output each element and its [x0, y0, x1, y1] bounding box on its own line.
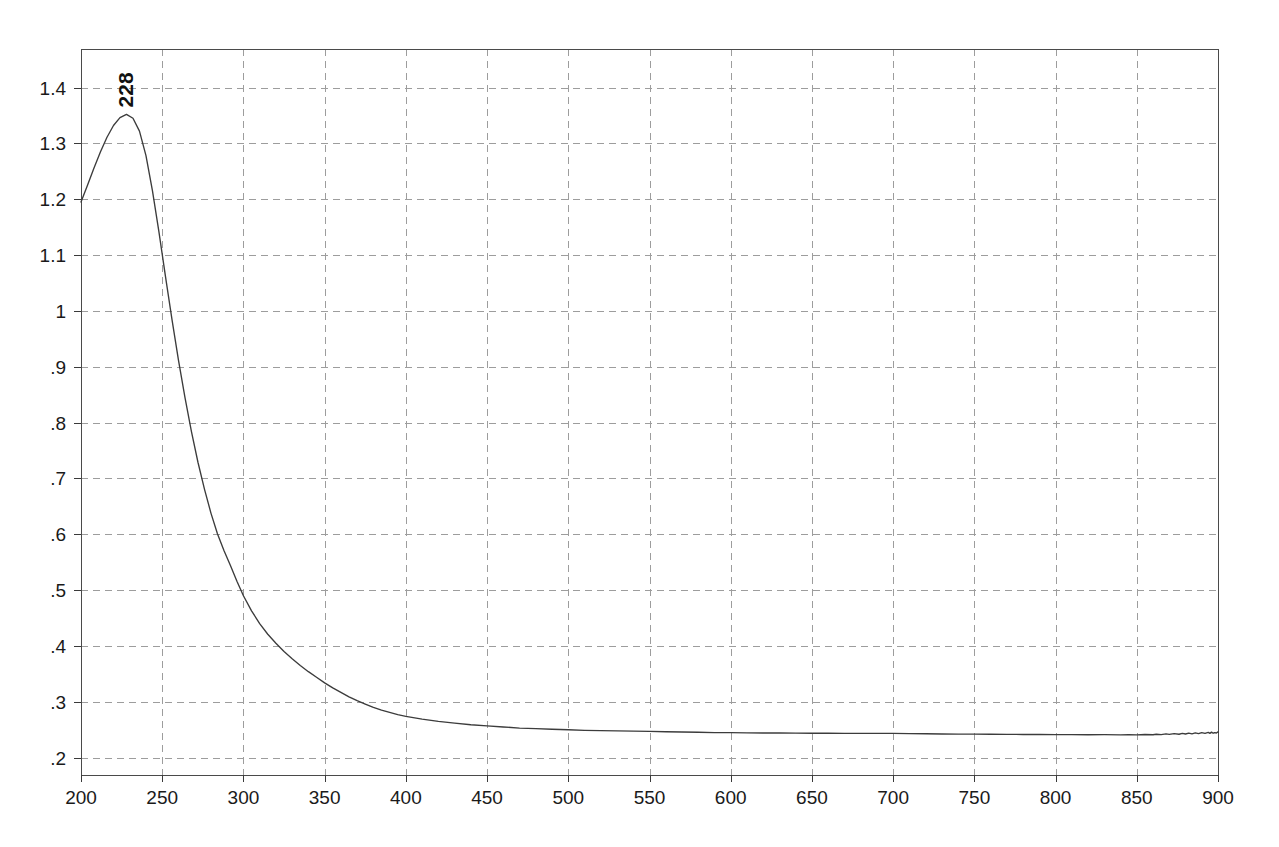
x-axis-label: 650	[796, 787, 828, 808]
x-axis-label: 700	[877, 787, 909, 808]
spectrum-trace	[81, 114, 1218, 735]
x-axis-label: 200	[65, 787, 97, 808]
spectrum-plot: 2002503003504004505005506006507007508008…	[0, 0, 1279, 847]
peak-annotations: 228	[114, 72, 137, 107]
peak-wavelength-label: 228	[114, 72, 137, 107]
y-axis-label: .4	[50, 636, 66, 657]
y-axis-label: 1.4	[40, 78, 67, 99]
y-axis-label: .8	[50, 413, 66, 434]
spectrum-chart-page: 2002503003504004505005506006507007508008…	[0, 0, 1279, 847]
y-axis-label: .2	[50, 748, 66, 769]
x-axis-label: 750	[959, 787, 991, 808]
y-axis-tick-labels: .2.3.4.5.6.7.8.911.11.21.31.4	[40, 78, 67, 769]
x-axis-label: 450	[471, 787, 503, 808]
absorbance-curve	[81, 114, 1218, 735]
x-axis-label: 300	[228, 787, 260, 808]
x-axis-label: 600	[715, 787, 747, 808]
y-axis-label: .3	[50, 692, 66, 713]
x-axis-tick-labels: 2002503003504004505005506006507007508008…	[65, 787, 1234, 808]
y-axis-label: .9	[50, 357, 66, 378]
y-axis-label: 1.2	[40, 189, 66, 210]
x-axis-label: 850	[1121, 787, 1153, 808]
y-axis-label: .6	[50, 524, 66, 545]
x-axis-label: 900	[1202, 787, 1234, 808]
gridlines	[81, 49, 1218, 775]
y-axis-label: 1.3	[40, 133, 66, 154]
axis-tick-marks	[74, 89, 1219, 783]
y-axis-label: 1	[55, 301, 66, 322]
x-axis-label: 400	[390, 787, 422, 808]
y-axis-label: 1.1	[40, 245, 66, 266]
x-axis-label: 800	[1040, 787, 1072, 808]
x-axis-label: 550	[634, 787, 666, 808]
x-axis-label: 500	[552, 787, 584, 808]
y-axis-label: .7	[50, 468, 66, 489]
x-axis-label: 350	[309, 787, 341, 808]
x-axis-label: 250	[146, 787, 178, 808]
y-axis-label: .5	[50, 580, 66, 601]
